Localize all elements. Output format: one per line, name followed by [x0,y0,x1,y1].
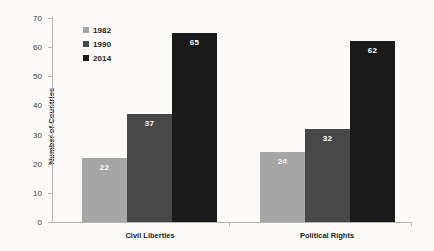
y-tick-60: 60 [48,47,52,48]
legend-item-1990[interactable]: 1990 [83,37,111,51]
legend-swatch-icon [83,41,89,47]
y-tick-0: 0 [48,222,52,223]
x-axis-line [52,222,412,223]
y-tick-50: 50 [48,76,52,77]
y-tick-30: 30 [48,135,52,136]
y-tick-label-30: 30 [33,130,42,139]
y-tick-label-0: 0 [38,218,42,227]
bar-value-label: 24 [260,157,305,166]
bar-political-rights-2014[interactable]: 62 [350,41,395,222]
bar-political-rights-1982[interactable]: 24 [260,152,305,222]
legend-label: 2014 [93,54,111,63]
y-tick-label-10: 10 [33,188,42,197]
legend-label: 1982 [93,26,111,35]
x-tick-end [411,222,412,226]
bar-value-label: 62 [350,46,395,55]
y-tick-10: 10 [48,193,52,194]
bar-value-label: 32 [305,134,350,143]
legend: 1982 1990 2014 [83,23,111,65]
y-tick-40: 40 [48,105,52,106]
y-tick-70: 70 [48,18,52,19]
bar-value-label: 65 [172,38,217,47]
bar-civil-liberties-1982[interactable]: 22 [82,158,127,222]
x-category-label-civil-liberties: Civil Liberties [125,231,174,240]
y-tick-label-60: 60 [33,43,42,52]
legend-item-2014[interactable]: 2014 [83,51,111,65]
y-tick-label-20: 20 [33,159,42,168]
bar-civil-liberties-2014[interactable]: 65 [172,33,217,222]
y-tick-20: 20 [48,164,52,165]
y-tick-label-50: 50 [33,72,42,81]
legend-label: 1990 [93,40,111,49]
x-category-label-political-rights: Political Rights [300,231,354,240]
legend-item-1982[interactable]: 1982 [83,23,111,37]
y-tick-label-70: 70 [33,14,42,23]
x-tick-separator [229,222,230,226]
legend-swatch-icon [83,55,89,61]
legend-swatch-icon [83,27,89,33]
bar-civil-liberties-1990[interactable]: 37 [127,114,172,222]
bar-value-label: 22 [82,163,127,172]
bar-value-label: 37 [127,119,172,128]
y-tick-label-40: 40 [33,101,42,110]
bar-political-rights-1990[interactable]: 32 [305,129,350,222]
bar-chart-screenshot: Number of Countries 0 10 20 30 40 50 60 … [0,0,434,251]
